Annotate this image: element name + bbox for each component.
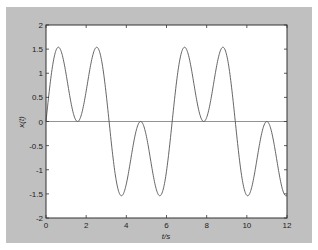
- y-axis-label: x(t): [17, 116, 26, 129]
- x-tick-label: 0: [44, 221, 49, 230]
- x-tick-label: 4: [124, 221, 129, 230]
- y-tick-label: -0.5: [29, 142, 43, 151]
- x-tick-label: 2: [84, 221, 89, 230]
- y-tick-label: 0: [39, 118, 44, 127]
- y-tick-label: 0.5: [32, 93, 44, 102]
- y-tick-label: 1.5: [32, 45, 44, 54]
- x-tick-label: 6: [164, 221, 169, 230]
- y-tick-label: -2: [36, 214, 44, 223]
- y-tick-label: 1: [39, 69, 44, 78]
- x-axis-label: t/s: [162, 232, 170, 241]
- y-tick-label: -1.5: [29, 190, 43, 199]
- figure-panel: 024681012-2-1.5-1-0.500.511.52 t/s x(t): [6, 7, 312, 243]
- axes: 024681012-2-1.5-1-0.500.511.52: [29, 21, 292, 230]
- x-tick-label: 12: [283, 221, 292, 230]
- y-tick-label: -1: [36, 166, 44, 175]
- x-tick-label: 8: [204, 221, 209, 230]
- line-chart: 024681012-2-1.5-1-0.500.511.52 t/s x(t): [6, 7, 312, 243]
- x-tick-label: 10: [242, 221, 251, 230]
- y-tick-label: 2: [39, 21, 44, 30]
